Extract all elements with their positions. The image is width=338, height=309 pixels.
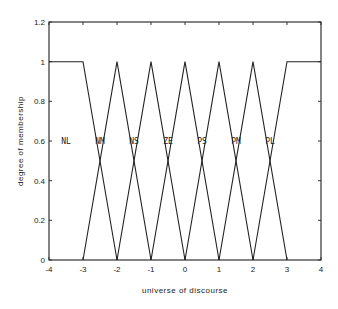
mf-ps	[185, 62, 253, 260]
mf-label-ze: ZE	[163, 137, 173, 146]
x-tick-label: 0	[183, 265, 188, 274]
axes-box	[49, 22, 321, 260]
mf-label-nl: NL	[61, 137, 71, 146]
plot-frame	[49, 22, 321, 260]
y-axis-ticks: 00.20.40.60.811.2	[34, 18, 321, 265]
x-tick-label: 2	[251, 265, 256, 274]
mf-label-pm: PM	[231, 137, 241, 146]
x-tick-label: 1	[217, 265, 222, 274]
y-tick-label: 0	[41, 256, 46, 265]
y-tick-label: 0.2	[34, 216, 46, 225]
membership-labels: NLNMNSZEPSPMPL	[61, 137, 275, 146]
membership-function-chart: 00.20.40.60.811.2 -4-3-2-101234 NLNMNSZE…	[0, 0, 338, 309]
y-tick-label: 1.2	[34, 18, 46, 27]
x-tick-label: -3	[79, 265, 87, 274]
membership-functions	[49, 62, 321, 260]
x-tick-label: 3	[285, 265, 290, 274]
mf-ze	[151, 62, 219, 260]
y-axis-title: degree of membership	[16, 96, 25, 186]
mf-nm	[83, 62, 151, 260]
mf-nl	[49, 62, 117, 260]
x-tick-label: 4	[319, 265, 324, 274]
x-tick-label: -4	[45, 265, 53, 274]
y-tick-label: 0.6	[34, 137, 46, 146]
mf-pm	[219, 62, 287, 260]
mf-label-pl: PL	[265, 137, 275, 146]
x-tick-label: -2	[113, 265, 121, 274]
y-tick-label: 1	[41, 58, 46, 67]
mf-ns	[117, 62, 185, 260]
y-tick-label: 0.4	[34, 177, 46, 186]
y-tick-label: 0.8	[34, 97, 46, 106]
mf-pl	[253, 62, 321, 260]
mf-label-nm: NM	[95, 137, 105, 146]
mf-label-ps: PS	[197, 137, 207, 146]
mf-label-ns: NS	[129, 137, 139, 146]
x-tick-label: -1	[147, 265, 155, 274]
x-axis-title: universe of discourse	[142, 286, 228, 295]
